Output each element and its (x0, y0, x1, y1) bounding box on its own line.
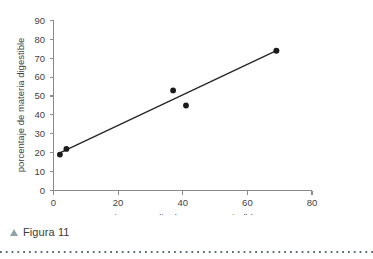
triangle-up-icon (10, 229, 18, 236)
y-axis-tick-labels: 0 10 20 30 40 50 60 70 80 90 (34, 15, 45, 196)
data-point (57, 152, 63, 158)
y-tick-label: 90 (34, 15, 45, 26)
figure-container: 0 10 20 30 40 50 60 70 80 90 0 (0, 0, 373, 259)
dotted-divider (0, 250, 373, 254)
chart-canvas: 0 10 20 30 40 50 60 70 80 90 0 (0, 0, 373, 215)
y-tick-label: 10 (34, 166, 45, 177)
figure-caption-label: Figura 11 (23, 226, 70, 238)
y-tick-label: 0 (40, 185, 45, 196)
fit-line (58, 51, 276, 154)
x-tick-label: 40 (178, 197, 189, 208)
data-point (170, 88, 176, 94)
x-tick-label: 0 (51, 197, 56, 208)
y-tick-label: 20 (34, 147, 45, 158)
y-tick-label: 70 (34, 53, 45, 64)
data-points (57, 48, 279, 158)
data-point (273, 48, 279, 54)
x-tick-label: 20 (113, 197, 124, 208)
data-point (64, 146, 70, 152)
y-tick-label: 50 (34, 90, 45, 101)
x-tick-label: 80 (307, 197, 318, 208)
x-axis-tick-labels: 0 20 40 60 80 (51, 197, 317, 208)
figure-caption: Figura 11 (10, 226, 70, 238)
y-axis-title: porcentaje de materia digestible (15, 38, 26, 173)
x-axis-ticks (54, 191, 313, 196)
x-axis-title: tiempo medio de permanencia (h) (112, 212, 254, 215)
y-axis-ticks (50, 20, 54, 190)
data-point (183, 103, 189, 109)
x-tick-label: 60 (242, 197, 253, 208)
scatter-chart: 0 10 20 30 40 50 60 70 80 90 0 (0, 0, 373, 215)
y-tick-label: 30 (34, 128, 45, 139)
y-tick-label: 80 (34, 34, 45, 45)
y-tick-label: 40 (34, 109, 45, 120)
y-tick-label: 60 (34, 71, 45, 82)
